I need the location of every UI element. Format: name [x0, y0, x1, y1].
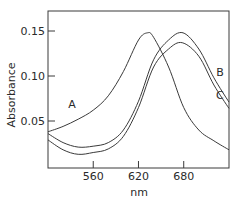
x-tick-label: 620	[128, 170, 149, 183]
absorbance-chart: 0.050.100.15 560620680 ABC nm Absorbance	[0, 0, 238, 208]
y-axis-ticks: 0.050.100.15	[21, 25, 56, 128]
curves	[48, 32, 229, 154]
x-axis-ticks: 560620680	[83, 161, 194, 183]
curve-label-b: B	[216, 66, 224, 79]
y-tick-label: 0.15	[21, 25, 46, 38]
curve-b	[48, 32, 229, 147]
y-tick-label: 0.10	[21, 70, 46, 83]
x-tick-label: 680	[173, 170, 194, 183]
y-tick-label: 0.05	[21, 115, 46, 128]
y-axis-label: Absorbance	[5, 62, 18, 127]
plot-frame	[48, 11, 229, 168]
curve-label-c: C	[216, 89, 224, 102]
x-tick-label: 560	[83, 170, 104, 183]
curve-a	[48, 33, 229, 150]
x-axis-label: nm	[130, 186, 148, 199]
curve-labels: ABC	[68, 66, 224, 111]
curve-label-a: A	[68, 98, 76, 111]
